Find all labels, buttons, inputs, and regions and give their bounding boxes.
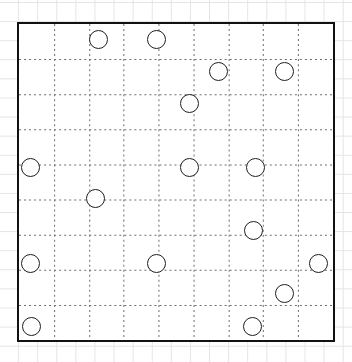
puzzle-circle[interactable]: [243, 317, 262, 336]
puzzle-circle[interactable]: [246, 158, 265, 177]
puzzle-circle[interactable]: [21, 254, 40, 273]
puzzle-circle[interactable]: [180, 94, 199, 113]
puzzle-circle[interactable]: [275, 62, 294, 81]
puzzle-circle[interactable]: [89, 30, 108, 49]
puzzle-circle[interactable]: [244, 221, 263, 240]
grid-board[interactable]: [17, 22, 335, 342]
puzzle-circle[interactable]: [209, 62, 228, 81]
puzzle-circle[interactable]: [22, 317, 41, 336]
puzzle-circle[interactable]: [147, 254, 166, 273]
puzzle-circle[interactable]: [275, 284, 294, 303]
puzzle-canvas: [0, 0, 352, 362]
puzzle-circle[interactable]: [21, 158, 40, 177]
puzzle-circle[interactable]: [180, 158, 199, 177]
puzzle-circle[interactable]: [309, 254, 328, 273]
puzzle-circle[interactable]: [147, 30, 166, 49]
puzzle-circle[interactable]: [86, 189, 105, 208]
